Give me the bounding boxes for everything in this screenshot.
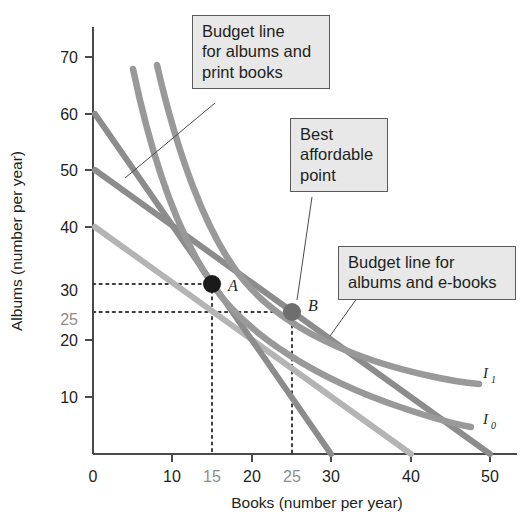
point-a-marker[interactable]	[203, 275, 221, 293]
curve-label-i0-base: I	[482, 411, 489, 427]
x-tick-30: 30	[322, 468, 340, 485]
y-tick-20: 20	[60, 332, 78, 349]
curve-label-i1: I 1	[482, 365, 496, 385]
curve-label-i0-sub: 0	[491, 420, 496, 431]
callout-print-books-line-1: Budget line	[202, 21, 321, 41]
indifference-curve-i1	[157, 65, 479, 384]
y-tick-25: 25	[60, 311, 78, 328]
y-tick-10: 10	[60, 389, 78, 406]
curve-label-i0: I 0	[482, 411, 496, 431]
x-tick-20: 20	[243, 468, 261, 485]
x-tick-25: 25	[283, 468, 301, 485]
callout-print-books: Budget line for albums and print books	[192, 15, 330, 89]
y-tick-70: 70	[60, 49, 78, 66]
x-axis-label: Books (number per year)	[231, 494, 402, 511]
y-tick-50: 50	[60, 162, 78, 179]
point-b-marker[interactable]	[283, 303, 301, 321]
y-axis-label: Albums (number per year)	[8, 151, 25, 331]
leader-best-point	[297, 197, 312, 300]
y-tick-40: 40	[60, 219, 78, 236]
callout-best-point: Best affordable point	[290, 118, 388, 192]
indifference-curve-chart: 70 60 50 40 30 25 20 10 0 10 15 20 25 30…	[0, 0, 524, 531]
y-tick-30: 30	[60, 282, 78, 299]
x-tick-10: 10	[163, 468, 181, 485]
point-a-label: A	[227, 277, 238, 294]
x-tick-15: 15	[203, 468, 221, 485]
callout-print-books-line-2: for albums and	[202, 41, 321, 61]
axis-lines	[93, 27, 517, 454]
x-tick-0: 0	[89, 468, 98, 485]
point-b-label: B	[308, 297, 318, 314]
y-tick-60: 60	[60, 106, 78, 123]
callout-best-point-line-2: affordable	[300, 144, 379, 164]
curve-label-i1-base: I	[482, 365, 489, 381]
callout-e-books-line-1: Budget line for	[348, 252, 507, 272]
y-axis-ticks	[85, 57, 93, 397]
guide-lines	[93, 284, 292, 454]
leader-e-books	[330, 294, 360, 336]
x-tick-40: 40	[402, 468, 420, 485]
curve-label-i1-sub: 1	[491, 374, 496, 385]
x-tick-50: 50	[481, 468, 499, 485]
callout-e-books: Budget line for albums and e-books	[338, 246, 516, 300]
callout-best-point-line-3: point	[300, 165, 379, 185]
callout-e-books-line-2: albums and e-books	[348, 272, 507, 292]
callout-best-point-line-1: Best	[300, 124, 379, 144]
callout-print-books-line-3: print books	[202, 62, 321, 82]
